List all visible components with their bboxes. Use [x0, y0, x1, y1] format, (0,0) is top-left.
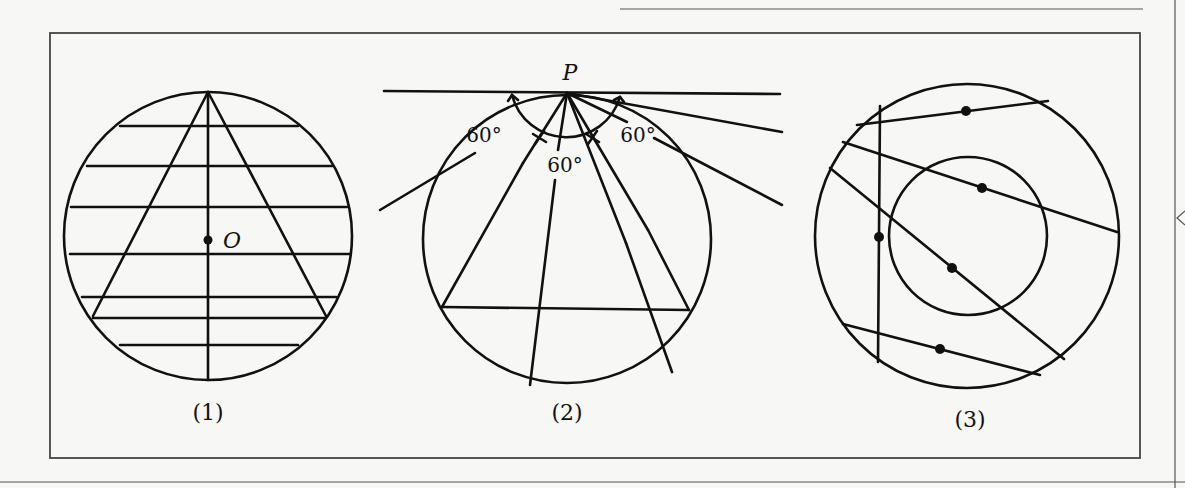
caption-1: (1): [192, 400, 223, 425]
caption-3: (3): [954, 407, 985, 432]
tangent-line: [384, 91, 780, 94]
panel-3: (3): [815, 84, 1119, 432]
figure-canvas: O (1) P 60° 60° 60° (2): [0, 0, 1185, 488]
point-label-o: O: [223, 228, 241, 253]
chord-midpoint: [977, 183, 987, 193]
angle-label-middle: 60°: [547, 153, 582, 177]
caption-2: (2): [551, 400, 582, 425]
angle-label-left: 60°: [466, 123, 501, 147]
chevron-left-icon[interactable]: [1177, 211, 1185, 225]
panel-2: P 60° 60° 60° (2): [380, 60, 782, 425]
chord-midpoint: [947, 263, 957, 273]
chord-midpoint: [961, 106, 971, 116]
point-label-p: P: [562, 60, 579, 85]
chord-midpoint: [874, 232, 884, 242]
outer-circle: [815, 84, 1119, 388]
panel-1: O (1): [64, 92, 352, 425]
angle-label-right: 60°: [620, 123, 655, 147]
center-point: [204, 236, 213, 245]
chord-midpoint: [935, 344, 945, 354]
